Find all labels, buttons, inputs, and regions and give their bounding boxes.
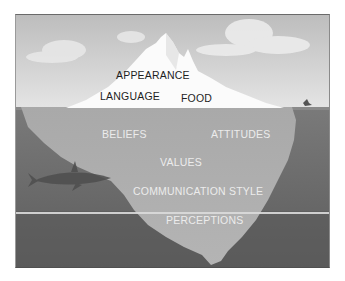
label-beliefs: BELIEFS [102, 129, 147, 140]
label-values: VALUES [160, 157, 202, 168]
label-appearance: APPEARANCE [116, 70, 190, 81]
iceberg-illustration: APPEARANCE LANGUAGE FOOD BELIEFS ATTITUD… [15, 14, 330, 268]
label-attitudes: ATTITUDES [211, 129, 270, 140]
iceberg-scene [16, 15, 329, 267]
label-communication-style: COMMUNICATION STYLE [133, 186, 263, 197]
label-language: LANGUAGE [100, 91, 160, 102]
label-perceptions: PERCEPTIONS [166, 215, 243, 226]
label-food: FOOD [181, 93, 212, 104]
